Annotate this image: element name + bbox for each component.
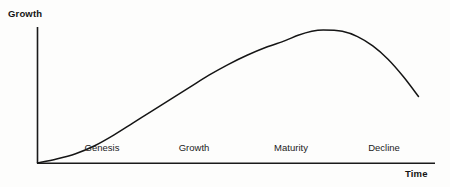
x-axis-title: Time <box>405 168 428 179</box>
phase-label-growth: Growth <box>179 142 210 153</box>
s-curve-chart: Growth Time Genesis Growth Maturity Decl… <box>0 0 450 187</box>
phase-label-maturity: Maturity <box>274 142 308 153</box>
chart-canvas <box>0 0 450 187</box>
phase-label-decline: Decline <box>368 142 400 153</box>
y-axis-title: Growth <box>8 8 42 19</box>
phase-label-genesis: Genesis <box>85 142 120 153</box>
